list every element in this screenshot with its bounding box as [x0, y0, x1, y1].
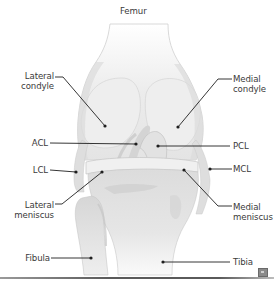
leader-dot-lateral-meniscus [100, 170, 103, 173]
leader-line-medial-meniscus [184, 170, 232, 206]
leader-line-lateral-condyle [55, 77, 105, 126]
label-pcl: PCL [233, 141, 249, 151]
enlarge-image-icon[interactable] [258, 268, 268, 277]
label-lateral-meniscus: Lateral meniscus [8, 200, 54, 220]
leader-dot-acl [134, 142, 137, 145]
leader-dot-lateral-condyle [103, 124, 106, 127]
label-tibia: Tibia [233, 257, 253, 267]
bottom-divider [0, 277, 274, 279]
leader-dot-lcl [74, 170, 77, 173]
label-lateral-condyle: Lateral condyle [20, 71, 54, 91]
label-acl: ACL [30, 138, 48, 148]
leader-dot-tibia [161, 260, 164, 263]
knee-anatomy-diagram: Lateral condyleMedial condyleACLPCLLCLMC… [0, 0, 274, 283]
leader-dot-medial-meniscus [182, 168, 185, 171]
label-medial-meniscus: Medial meniscus [233, 202, 273, 222]
label-mcl: MCL [233, 164, 251, 174]
label-fibula: Fibula [20, 253, 50, 263]
leader-dot-pcl [156, 144, 159, 147]
leader-line-acl [50, 143, 136, 144]
leader-dot-fibula [89, 256, 92, 259]
leader-dot-medial-condyle [176, 125, 179, 128]
leader-line-lateral-meniscus [55, 172, 102, 204]
leader-line-lcl [50, 170, 76, 172]
label-lcl: LCL [30, 165, 48, 175]
leader-line-medial-condyle [178, 79, 232, 127]
label-femur: Femur [120, 6, 147, 16]
label-medial-condyle: Medial condyle [233, 74, 266, 94]
leader-dot-mcl [208, 167, 211, 170]
